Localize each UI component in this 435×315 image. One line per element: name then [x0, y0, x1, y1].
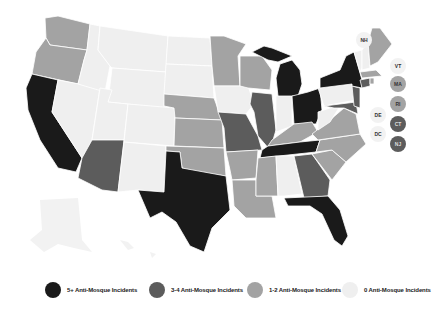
- legend-item-5plus: 5+ Anti-Mosque Incidents: [45, 280, 137, 300]
- badge-label: CT: [395, 121, 402, 127]
- legend-swatch-icon: [45, 282, 61, 298]
- state-fl[interactable]: [284, 196, 348, 246]
- legend: 5+ Anti-Mosque Incidents 3-4 Anti-Mosque…: [0, 280, 435, 300]
- state-ma[interactable]: [360, 70, 382, 78]
- state-sd[interactable]: [164, 64, 214, 98]
- badge-nh[interactable]: NH: [356, 32, 372, 48]
- legend-swatch-icon: [149, 282, 165, 298]
- badge-dc[interactable]: DC: [370, 126, 386, 142]
- state-hi[interactable]: [120, 240, 156, 258]
- state-ri[interactable]: [370, 78, 374, 84]
- state-wi[interactable]: [240, 56, 272, 90]
- state-co[interactable]: [124, 104, 175, 146]
- badge-ma[interactable]: MA: [390, 76, 406, 92]
- badge-label: RI: [396, 101, 401, 107]
- state-ks[interactable]: [174, 118, 224, 148]
- state-ia[interactable]: [214, 86, 254, 114]
- badge-label: DE: [375, 112, 382, 118]
- us-map: [0, 0, 435, 315]
- state-ar[interactable]: [226, 150, 258, 180]
- state-ms[interactable]: [256, 156, 278, 196]
- legend-item-1-2: 1-2 Anti-Mosque Incidents: [247, 280, 341, 300]
- state-mi[interactable]: [276, 60, 302, 96]
- badge-label: VT: [395, 63, 401, 69]
- legend-label: 5+ Anti-Mosque Incidents: [67, 287, 137, 293]
- badge-label: NJ: [395, 141, 401, 147]
- state-ak[interactable]: [30, 198, 92, 252]
- badge-label: DC: [374, 131, 381, 137]
- badge-vt[interactable]: VT: [390, 58, 406, 74]
- state-ct[interactable]: [360, 78, 370, 88]
- badge-de[interactable]: DE: [370, 107, 386, 123]
- legend-swatch-icon: [247, 282, 263, 298]
- legend-item-3-4: 3-4 Anti-Mosque Incidents: [149, 280, 243, 300]
- badge-label: MA: [394, 81, 402, 87]
- state-me[interactable]: [368, 28, 392, 66]
- badge-ct[interactable]: CT: [390, 116, 406, 132]
- badge-nj[interactable]: NJ: [390, 136, 406, 152]
- legend-item-0: 0 Anti-Mosque Incidents: [342, 280, 431, 300]
- legend-label: 1-2 Anti-Mosque Incidents: [269, 287, 341, 293]
- state-nm[interactable]: [118, 142, 166, 192]
- badge-ri[interactable]: RI: [390, 96, 406, 112]
- badge-label: NH: [360, 37, 367, 43]
- legend-label: 0 Anti-Mosque Incidents: [364, 287, 431, 293]
- state-in[interactable]: [276, 94, 292, 132]
- state-nd[interactable]: [166, 36, 212, 66]
- state-wy[interactable]: [108, 68, 166, 108]
- legend-label: 3-4 Anti-Mosque Incidents: [171, 287, 243, 293]
- legend-swatch-icon: [342, 282, 358, 298]
